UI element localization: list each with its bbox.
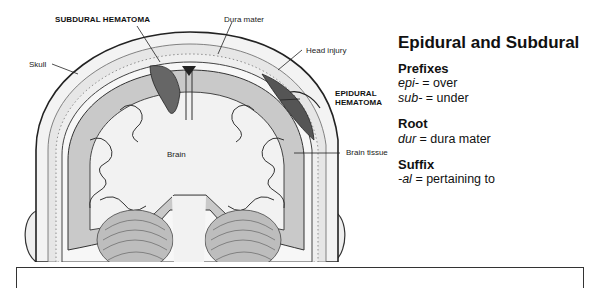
prefix-epi-definition: = over [419, 76, 458, 90]
suffix-al-definition: = pertaining to [412, 172, 495, 186]
root-dur-definition: = dura mater [416, 132, 491, 146]
prefixes-section: Prefixes epi- = over sub- = under [398, 62, 588, 105]
head-injury-label: Head injury [306, 47, 346, 55]
prefixes-heading: Prefixes [398, 62, 588, 76]
coronal-brain-illustration: SUBDURAL HEMATOMA Dura mater Skull Head … [0, 0, 370, 262]
dura-mater-label: Dura mater [224, 16, 264, 24]
root-section: Root dur = dura mater [398, 117, 588, 146]
prefix-sub-term: sub- [398, 91, 422, 105]
prefix-epi-term: epi- [398, 76, 419, 90]
suffix-al-term: -al [398, 172, 412, 186]
prefix-sub-definition: = under [422, 91, 468, 105]
bottom-box-border [16, 267, 584, 288]
epidural-hematoma-label-line1: EPIDURAL [335, 90, 377, 98]
subdural-hematoma-label: SUBDURAL HEMATOMA [55, 16, 150, 24]
root-heading: Root [398, 117, 588, 131]
prefix-sub-row: sub- = under [398, 91, 588, 106]
prefix-epi-row: epi- = over [398, 76, 588, 91]
brain-cross-section-drawing [0, 0, 370, 262]
suffix-al-row: -al = pertaining to [398, 172, 588, 187]
panel-title: Epidural and Subdural [398, 34, 588, 51]
epidural-hematoma-label-line2: HEMATOMA [335, 99, 382, 107]
suffix-heading: Suffix [398, 158, 588, 172]
skull-label: Skull [29, 61, 46, 69]
suffix-section: Suffix -al = pertaining to [398, 158, 588, 187]
brain-label: Brain [167, 151, 186, 159]
terminology-panel: Epidural and Subdural Prefixes epi- = ov… [398, 34, 588, 187]
root-dur-row: dur = dura mater [398, 132, 588, 147]
root-dur-term: dur [398, 132, 416, 146]
brain-tissue-label: Brain tissue [346, 149, 388, 157]
